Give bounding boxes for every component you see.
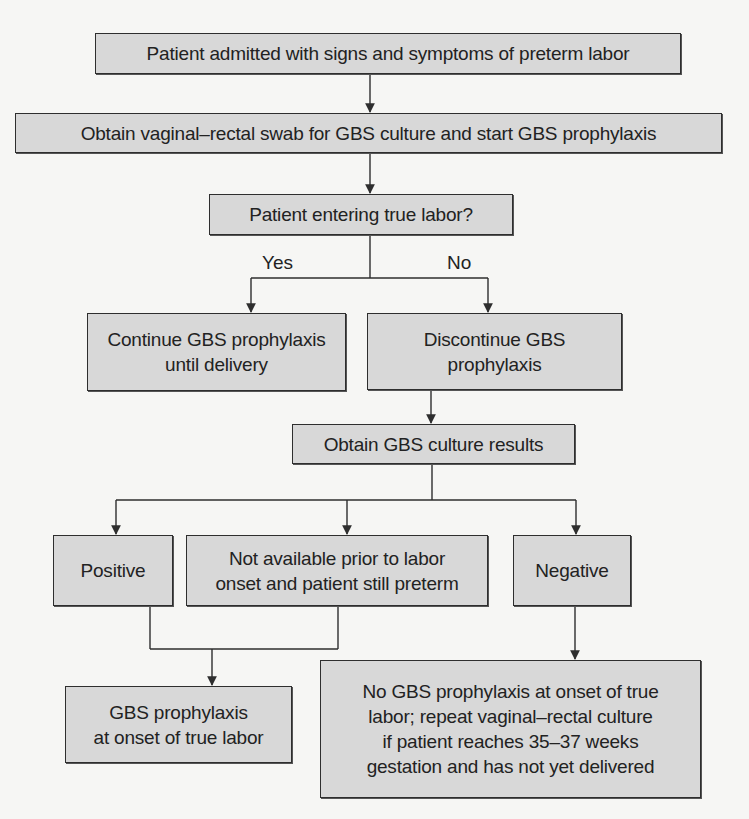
node-label: Patient entering true labor?: [249, 202, 473, 227]
node-obtain-swab: Obtain vaginal–rectal swab for GBS cultu…: [15, 113, 722, 153]
node-negative: Negative: [513, 535, 631, 606]
node-discontinue-prophylaxis: Discontinue GBS prophylaxis: [367, 313, 622, 390]
node-label: No GBS prophylaxis at onset of true labo…: [362, 679, 658, 779]
node-not-available: Not available prior to labor onset and p…: [186, 535, 488, 606]
node-label: Obtain GBS culture results: [324, 432, 544, 457]
node-positive: Positive: [53, 535, 173, 606]
edge-label-no: No: [447, 252, 471, 274]
node-label: Discontinue GBS prophylaxis: [424, 327, 566, 377]
node-true-labor-question: Patient entering true labor?: [209, 194, 513, 235]
node-label: Negative: [535, 558, 608, 583]
node-label: Obtain vaginal–rectal swab for GBS cultu…: [81, 121, 657, 146]
node-label: Continue GBS prophylaxis until delivery: [107, 327, 325, 377]
node-culture-results: Obtain GBS culture results: [292, 424, 575, 464]
node-label: Not available prior to labor onset and p…: [215, 546, 458, 596]
node-continue-prophylaxis: Continue GBS prophylaxis until delivery: [87, 313, 346, 391]
node-no-prophylaxis: No GBS prophylaxis at onset of true labo…: [320, 660, 701, 798]
node-label: Patient admitted with signs and symptoms…: [147, 41, 630, 66]
node-prophylaxis-at-onset: GBS prophylaxis at onset of true labor: [65, 686, 292, 763]
node-patient-admitted: Patient admitted with signs and symptoms…: [95, 33, 681, 74]
edge-label-yes: Yes: [262, 252, 293, 274]
node-label: Positive: [81, 558, 146, 583]
node-label: GBS prophylaxis at onset of true labor: [94, 700, 264, 750]
